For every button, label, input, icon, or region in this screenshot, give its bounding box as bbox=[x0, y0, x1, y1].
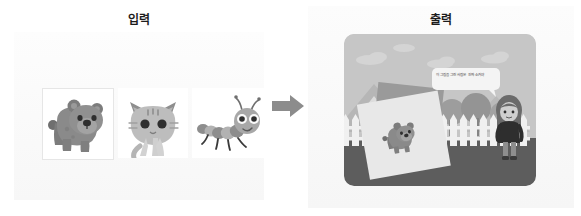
input-item-caterpillar[interactable] bbox=[192, 88, 268, 158]
bear-illustration bbox=[43, 89, 113, 159]
input-panel: 입력 bbox=[8, 6, 270, 206]
input-panel-title: 입력 bbox=[8, 10, 270, 27]
cat-illustration bbox=[118, 88, 188, 158]
arrow-right-icon bbox=[270, 92, 306, 120]
output-panel-title: 출력 bbox=[308, 10, 574, 27]
input-item-bear[interactable] bbox=[42, 88, 114, 160]
output-scene: 이 그림을 그린 사람은 진짜 소커야 bbox=[344, 34, 536, 186]
input-item-cat[interactable] bbox=[118, 88, 188, 158]
output-panel: 출력 bbox=[308, 6, 574, 208]
input-surface bbox=[14, 32, 264, 200]
picture-card-front bbox=[357, 91, 451, 180]
comparison-figure: 입력 bbox=[0, 0, 581, 216]
speech-bubble-text: 이 그림을 그린 사람은 진짜 소커야 bbox=[436, 73, 494, 79]
transform-arrow bbox=[270, 92, 306, 120]
caterpillar-illustration bbox=[192, 88, 268, 158]
scene-illustration bbox=[344, 34, 536, 186]
